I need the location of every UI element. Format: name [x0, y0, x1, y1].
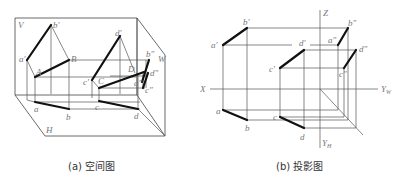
label-c-dprime: c" — [339, 69, 347, 79]
proj-a-dprime-b-dprime — [338, 28, 348, 45]
caption-a: (a) 空间图 — [68, 158, 115, 173]
label-b-dprime: b" — [348, 18, 357, 28]
caption-b: (b) 投影图 — [276, 158, 323, 173]
axis-label-Z: Z — [323, 8, 329, 18]
proj-ab — [223, 110, 247, 120]
proj-c-dprime-d-dprime — [344, 50, 356, 68]
label-a: a — [216, 106, 221, 116]
proj-cd — [280, 117, 304, 128]
label-a-prime: a' — [211, 40, 219, 50]
proj-a-prime-b-prime — [223, 28, 247, 45]
proj-c-prime-d-prime — [280, 50, 304, 68]
label-a-dprime: a" — [328, 35, 337, 45]
axis-label-X: X — [199, 84, 206, 94]
axis-label-YW: YW — [381, 84, 392, 95]
axis-label-YH: YH — [322, 138, 332, 149]
figure-b-projection-view: Z X YW YH a' b' c' d' a b c d a" b" c" d… — [0, 0, 400, 182]
label-d-prime: d' — [299, 38, 307, 48]
label-c-prime: c' — [269, 64, 276, 74]
label-d-dprime: d" — [359, 44, 368, 54]
label-c: c — [273, 112, 277, 122]
label-b-prime: b' — [243, 17, 251, 27]
label-d: d — [300, 132, 305, 142]
label-b: b — [245, 123, 250, 133]
